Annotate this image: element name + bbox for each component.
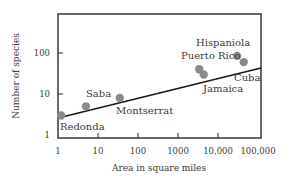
x-tick-label: 1000 [167, 146, 189, 156]
x-tick-label: 10 [93, 146, 104, 156]
x-axis-title: Area in square miles [111, 163, 207, 173]
point-label-redonda: Redonda [60, 121, 105, 132]
y-tick-label: 10 [39, 89, 50, 99]
data-point-cuba [240, 58, 248, 66]
y-axis-title: Number of species [11, 33, 21, 119]
y-tick-label: 100 [34, 48, 50, 58]
x-tick-label: 100,000 [240, 146, 275, 156]
data-point-jamaica [200, 70, 208, 78]
point-label-saba: Saba [86, 88, 111, 99]
data-point-montserrat [116, 94, 124, 102]
point-label-jamaica: Jamaica [202, 83, 243, 94]
species-area-chart: 110100100010,000100,000110100 RedondaSab… [0, 0, 293, 184]
y-tick-label: 1 [45, 130, 50, 140]
point-label-puerto-rico: Puerto Rico [181, 50, 240, 61]
point-label-hispaniola: Hispaniola [196, 37, 250, 48]
x-tick-label: 100 [130, 146, 146, 156]
point-label-cuba: Cuba [234, 72, 260, 83]
axis-ticks: 110100100010,000100,000110100 [34, 48, 276, 156]
data-point-redonda [57, 111, 65, 119]
point-labels: RedondaSabaMontserratPuerto RicoJamaicaH… [60, 37, 260, 132]
x-tick-label: 1 [55, 146, 60, 156]
point-label-montserrat: Montserrat [116, 105, 173, 116]
x-tick-label: 10,000 [203, 146, 233, 156]
data-point-saba [82, 102, 90, 110]
